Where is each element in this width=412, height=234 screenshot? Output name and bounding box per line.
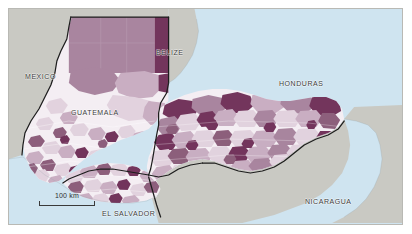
map-figure: MEXICO BELIZE GUATEMALA HONDURAS EL SALV… [0,0,412,234]
map-canvas[interactable] [9,9,402,224]
map-frame[interactable]: MEXICO BELIZE GUATEMALA HONDURAS EL SALV… [8,8,403,225]
